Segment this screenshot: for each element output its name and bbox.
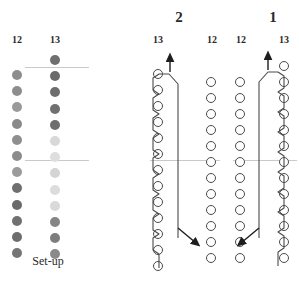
ring-node xyxy=(153,101,163,111)
setup-dot xyxy=(50,201,60,211)
step-number-2: 2 xyxy=(164,9,194,26)
ring-node xyxy=(153,261,163,271)
figure-canvas: 12 13 Set-up 2 13 12 1 12 13 xyxy=(0,0,299,290)
ring-node xyxy=(279,125,289,135)
setup-dot xyxy=(12,151,22,161)
setup-dot xyxy=(50,233,60,243)
ring-node xyxy=(235,125,245,135)
setup-dot xyxy=(50,87,60,97)
setup-dot xyxy=(50,71,60,81)
ring-node xyxy=(279,237,289,247)
ring-node xyxy=(235,237,245,247)
middle-col-label-left: 13 xyxy=(146,34,170,45)
setup-dot xyxy=(12,216,22,226)
ring-node xyxy=(279,157,289,167)
setup-col-label-13: 13 xyxy=(43,34,67,45)
ring-node xyxy=(235,253,245,263)
ring-node xyxy=(206,173,216,183)
ring-node xyxy=(206,253,216,263)
setup-dot xyxy=(12,167,22,177)
setup-dot xyxy=(50,185,60,195)
ring-node xyxy=(153,69,163,79)
middle-arrow-down-right xyxy=(178,228,196,243)
ring-node xyxy=(279,109,289,119)
setup-dot xyxy=(12,183,22,193)
setup-dot xyxy=(12,119,22,129)
ring-node xyxy=(153,117,163,127)
setup-dot xyxy=(50,104,60,114)
ring-node xyxy=(235,157,245,167)
right-col-label-left: 12 xyxy=(229,34,253,45)
step-number-1: 1 xyxy=(258,9,288,26)
ring-node xyxy=(279,141,289,151)
ring-node xyxy=(206,109,216,119)
ring-node xyxy=(153,165,163,175)
ring-node xyxy=(235,173,245,183)
ring-node xyxy=(279,61,289,71)
ring-node xyxy=(279,77,289,87)
setup-dot xyxy=(50,168,60,178)
ring-node xyxy=(235,205,245,215)
ring-node xyxy=(206,157,216,167)
setup-dot xyxy=(50,136,60,146)
ring-node xyxy=(153,213,163,223)
ring-node xyxy=(235,141,245,151)
setup-dot xyxy=(12,86,22,96)
ring-node xyxy=(206,141,216,151)
setup-dot xyxy=(50,217,60,227)
ring-node xyxy=(153,197,163,207)
ring-node xyxy=(153,181,163,191)
ring-node xyxy=(279,189,289,199)
ring-node xyxy=(206,237,216,247)
ring-node xyxy=(153,85,163,95)
ring-node xyxy=(153,229,163,239)
ring-node xyxy=(279,173,289,183)
ring-node xyxy=(279,93,289,103)
right-col-label-right: 13 xyxy=(272,34,296,45)
ring-node xyxy=(235,93,245,103)
setup-dot xyxy=(12,102,22,112)
ring-node xyxy=(153,149,163,159)
ring-node xyxy=(235,189,245,199)
setup-dot xyxy=(12,70,22,80)
middle-col-label-right: 12 xyxy=(200,34,224,45)
ring-node xyxy=(279,221,289,231)
setup-dot xyxy=(50,120,60,130)
ring-node xyxy=(206,189,216,199)
ring-node xyxy=(153,245,163,255)
setup-dot xyxy=(50,55,60,65)
ring-node xyxy=(235,109,245,119)
ring-node xyxy=(206,221,216,231)
ring-node xyxy=(279,205,289,215)
setup-col-label-12: 12 xyxy=(5,34,29,45)
setup-guide-line-top xyxy=(25,67,89,68)
setup-dot xyxy=(12,200,22,210)
ring-node xyxy=(206,93,216,103)
ring-node xyxy=(153,133,163,143)
ring-node xyxy=(235,221,245,231)
ring-node xyxy=(206,77,216,87)
setup-dot xyxy=(12,135,22,145)
ring-node xyxy=(206,125,216,135)
setup-dot xyxy=(12,232,22,242)
ring-node xyxy=(206,205,216,215)
ring-node xyxy=(235,77,245,87)
ring-node xyxy=(279,253,289,263)
setup-caption: Set-up xyxy=(8,254,88,269)
